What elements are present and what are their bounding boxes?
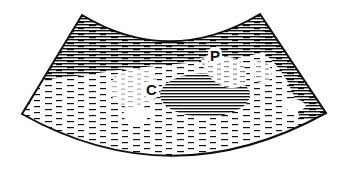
ultrasound-sector <box>0 0 343 170</box>
label-p: P <box>208 47 222 64</box>
diagram-canvas: P C <box>0 0 343 170</box>
sector-fill <box>0 0 343 170</box>
label-c: C <box>144 81 159 98</box>
